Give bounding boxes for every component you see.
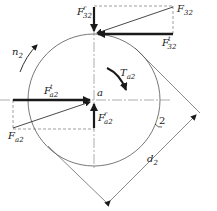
- gear-force-diagram: F32 Fr32 Ft32 n2 Ta2 Fta2 a Fra2 Fa2 2 d…: [0, 0, 217, 211]
- label-ta2: Ta2: [120, 67, 136, 81]
- tangent-line-left: [48, 146, 108, 204]
- label-f32-radial: Fr32: [76, 4, 93, 20]
- label-fa2-tangential: Fta2: [43, 83, 59, 99]
- label-a: a: [97, 87, 103, 98]
- fa2-resultant-arrow: [13, 102, 90, 128]
- label-d2: d2: [147, 153, 158, 167]
- f32-resultant-arrow: [97, 7, 173, 33]
- diagram-canvas: F32 Fr32 Ft32 n2 Ta2 Fta2 a Fra2 Fa2 2 d…: [0, 0, 217, 211]
- label-f32: F32: [176, 3, 193, 17]
- label-f32-tangential: Ft32: [161, 35, 177, 51]
- label-gear-number: 2: [159, 115, 165, 126]
- label-fa2-radial: Fra2: [97, 110, 113, 126]
- tangent-line-right: [135, 48, 200, 113]
- label-n2: n2: [12, 46, 23, 60]
- label-fa2: Fa2: [7, 130, 24, 144]
